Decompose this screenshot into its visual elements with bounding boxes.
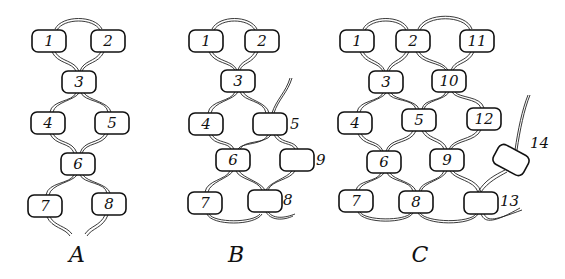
bead: 7 — [339, 190, 373, 212]
bead: 5 — [95, 112, 129, 134]
bead: 3 — [369, 71, 403, 93]
panel-label-c: C — [412, 242, 429, 267]
bead: 4 — [189, 113, 223, 135]
svg-text:8: 8 — [411, 193, 421, 211]
bead — [464, 192, 498, 214]
bead: 2 — [91, 30, 125, 52]
svg-text:3: 3 — [233, 72, 243, 90]
bead: 6 — [61, 153, 95, 175]
bead: 4 — [31, 112, 65, 134]
bead: 2 — [396, 30, 430, 52]
svg-text:2: 2 — [407, 32, 418, 50]
svg-text:6: 6 — [379, 153, 389, 171]
bead: 11 — [460, 30, 494, 52]
svg-text:6: 6 — [73, 155, 83, 173]
bead: 3 — [62, 71, 96, 93]
panel-a-beads: 1 2 3 4 5 6 7 8 — [28, 30, 129, 217]
svg-text:5: 5 — [414, 111, 424, 129]
bead: 7 — [188, 192, 222, 214]
panel-label-a: A — [67, 242, 85, 267]
bead: 9 — [430, 149, 464, 171]
bead-label: 5 — [290, 115, 300, 133]
svg-text:11: 11 — [467, 32, 486, 50]
bead-label: 9 — [316, 151, 326, 169]
bead: 7 — [28, 195, 62, 217]
svg-text:4: 4 — [200, 115, 211, 133]
bead-label: 8 — [283, 191, 293, 209]
svg-text:2: 2 — [102, 32, 113, 50]
bead — [248, 190, 282, 212]
bead: 5 — [402, 109, 436, 131]
svg-text:5: 5 — [107, 114, 117, 132]
bead: 2 — [245, 30, 279, 52]
svg-text:1: 1 — [44, 32, 54, 50]
svg-text:7: 7 — [40, 197, 50, 215]
bead — [280, 149, 314, 171]
svg-text:1: 1 — [201, 32, 211, 50]
bead-stringing-diagram: 1 2 3 4 5 6 7 8 1 2 3 4 5 6 9 7 8 1 2 11… — [0, 0, 565, 279]
panel-b-beads: 1 2 3 4 5 6 9 7 8 — [188, 30, 326, 214]
svg-text:4: 4 — [349, 114, 360, 132]
svg-text:3: 3 — [381, 73, 391, 91]
bead: 1 — [189, 30, 223, 52]
svg-text:9: 9 — [442, 151, 452, 169]
bead: 8 — [399, 191, 433, 213]
bead: 4 — [338, 112, 372, 134]
bead — [491, 142, 531, 177]
bead: 6 — [367, 151, 401, 173]
bead — [253, 113, 287, 135]
bead-label: 14 — [530, 134, 549, 152]
bead: 3 — [221, 70, 255, 92]
svg-text:12: 12 — [474, 110, 493, 128]
panel-c-beads: 1 2 11 3 10 4 5 12 6 9 7 8 13 14 — [338, 30, 549, 214]
svg-text:10: 10 — [439, 72, 459, 90]
bead: 6 — [216, 149, 250, 171]
svg-text:1: 1 — [352, 32, 362, 50]
svg-text:8: 8 — [104, 195, 114, 213]
svg-text:7: 7 — [351, 192, 361, 210]
svg-text:2: 2 — [256, 32, 267, 50]
bead: 8 — [92, 193, 126, 215]
bead: 10 — [432, 70, 466, 92]
bead: 12 — [467, 108, 501, 130]
panel-label-b: B — [227, 242, 244, 267]
svg-text:6: 6 — [228, 151, 238, 169]
svg-text:7: 7 — [200, 194, 210, 212]
bead-label: 13 — [500, 192, 519, 210]
bead: 1 — [32, 30, 66, 52]
bead: 1 — [340, 30, 374, 52]
svg-text:3: 3 — [74, 73, 84, 91]
svg-text:4: 4 — [42, 114, 53, 132]
